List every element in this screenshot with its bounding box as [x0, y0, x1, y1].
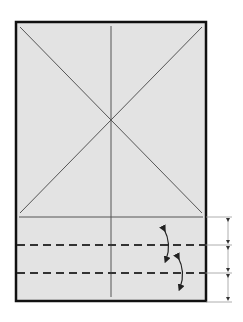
origami-diagram [0, 0, 243, 322]
